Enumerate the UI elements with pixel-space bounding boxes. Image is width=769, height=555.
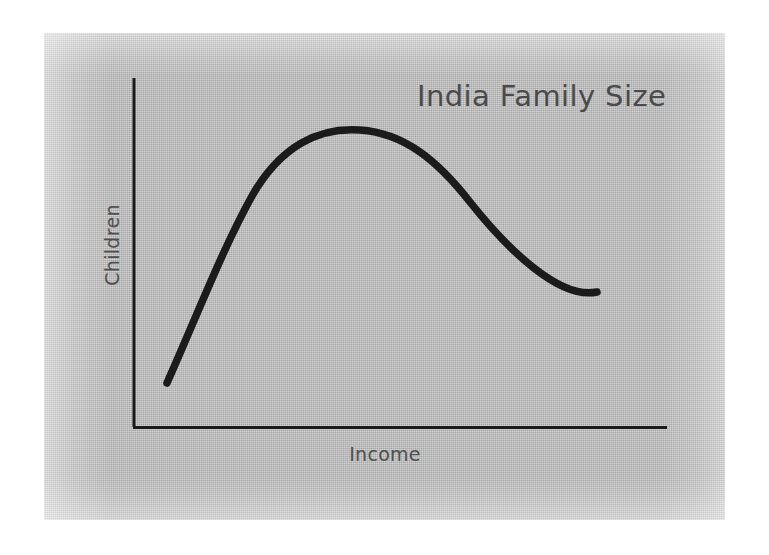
children-income-curve bbox=[167, 130, 597, 383]
y-axis-label: Children bbox=[101, 204, 123, 285]
figure-root: India Family Size Children Income bbox=[0, 0, 769, 555]
x-axis-label: Income bbox=[349, 443, 421, 465]
chart-title: India Family Size bbox=[417, 79, 666, 113]
